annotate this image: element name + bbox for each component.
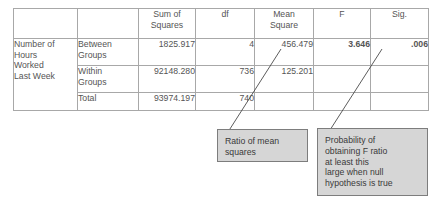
cell-f-within	[314, 66, 371, 93]
cell-mean-square-within: 125.201	[255, 66, 314, 93]
cell-sum-of-squares-between: 1825.917	[139, 39, 196, 66]
anova-table: Sum of Squares df Mean Square F Sig. Num…	[13, 8, 429, 111]
row-source-between-groups: Between Groups	[78, 39, 139, 66]
callout-ratio-of-mean-squares: Ratio of mean squares	[217, 129, 308, 162]
cell-f-total	[314, 93, 371, 111]
header-mean-square-line2: Square	[255, 20, 313, 31]
cell-df-between: 4	[196, 39, 255, 66]
header-corner-blank	[14, 9, 78, 39]
cell-sig-total	[371, 93, 429, 111]
callout-ratio-text: Ratio of mean squares	[218, 130, 307, 158]
callout-probability-of-f: Probability of obtaining F ratio at leas…	[317, 128, 428, 196]
table-row: Number of Hours Worked Last Week Between…	[14, 39, 429, 66]
cell-mean-square-between: 456.479	[255, 39, 314, 66]
header-sig: Sig.	[371, 9, 429, 39]
row-source-total: Total	[78, 93, 139, 111]
cell-sum-of-squares-total: 93974.197	[139, 93, 196, 111]
header-mean-square: Mean Square	[255, 9, 314, 39]
header-sum-of-squares: Sum of Squares	[139, 9, 196, 39]
dependent-variable-label: Number of Hours Worked Last Week	[14, 39, 78, 111]
header-sum-of-squares-line1: Sum of	[139, 9, 195, 20]
header-sum-of-squares-line2: Squares	[139, 20, 195, 31]
cell-df-within: 736	[196, 66, 255, 93]
cell-f-value: 3.646	[314, 39, 371, 66]
cell-sig-within	[371, 66, 429, 93]
header-df: df	[196, 9, 255, 39]
header-mean-square-line1: Mean	[255, 9, 313, 20]
header-source-blank	[78, 9, 139, 39]
cell-mean-square-total	[255, 93, 314, 111]
anova-output-figure: Sum of Squares df Mean Square F Sig. Num…	[0, 0, 441, 204]
cell-sig-value: .006	[371, 39, 429, 66]
header-f: F	[314, 9, 371, 39]
table-header-row: Sum of Squares df Mean Square F Sig.	[14, 9, 429, 39]
cell-sum-of-squares-within: 92148.280	[139, 66, 196, 93]
row-source-within-groups: Within Groups	[78, 66, 139, 93]
callout-probability-text: Probability of obtaining F ratio at leas…	[318, 129, 427, 189]
cell-df-total: 740	[196, 93, 255, 111]
